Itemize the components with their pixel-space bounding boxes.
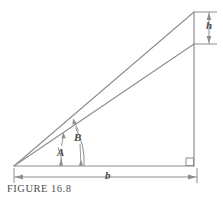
leader-arrow-b-lower-icon [79, 160, 83, 165]
angle-label-b: B [74, 132, 81, 143]
base-length-label: b [105, 170, 111, 181]
base-dimension-arrow-right-icon [188, 175, 196, 180]
hypotenuse-lower-line [14, 44, 194, 166]
figure-caption: FIGURE 16.8 [7, 183, 71, 194]
right-angle-marker-icon [186, 158, 194, 166]
height-length-label: h [206, 20, 212, 31]
angle-label-a: A [57, 147, 64, 158]
hypotenuse-upper-line [14, 12, 194, 166]
leader-arrow-a-lower-icon [59, 160, 63, 165]
base-dimension-arrow-left-icon [15, 175, 23, 180]
figure-drawing [0, 0, 223, 199]
height-dimension-arrow-bottom-icon [207, 36, 212, 43]
figure-container: A B b h FIGURE 16.8 [0, 0, 223, 199]
